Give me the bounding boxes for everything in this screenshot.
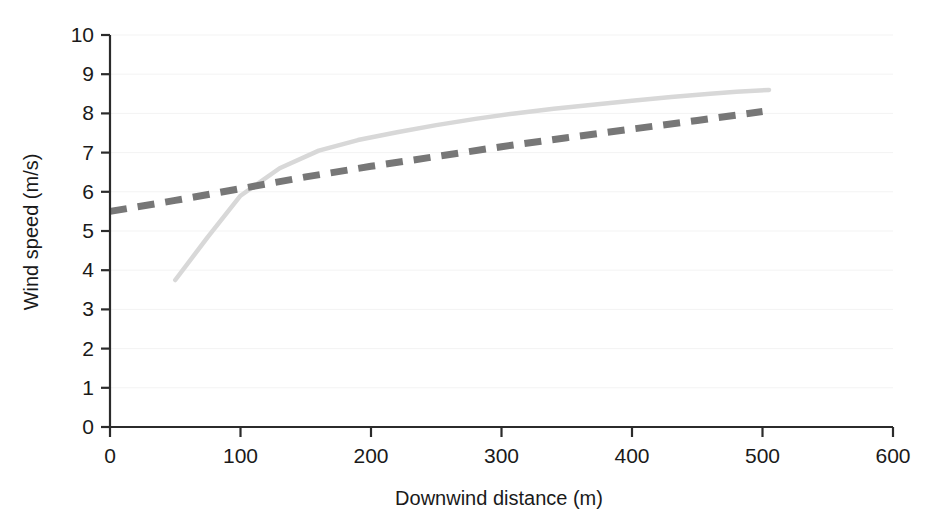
- x-tick-label: 100: [223, 444, 258, 467]
- y-tick-label: 2: [82, 337, 94, 360]
- y-tick-label: 1: [82, 376, 94, 399]
- y-tick-label: 4: [82, 258, 94, 281]
- x-axis-title: Downwind distance (m): [395, 487, 603, 509]
- data-series-layer: [110, 90, 769, 280]
- y-tick-label: 6: [82, 180, 94, 203]
- wind-speed-vs-downwind-distance-chart: 012345678910 0100200300400500600 Downwin…: [0, 0, 938, 528]
- chart-figure: 012345678910 0100200300400500600 Downwin…: [0, 0, 938, 528]
- x-tick-label: 200: [353, 444, 388, 467]
- y-axis-title: Wind speed (m/s): [20, 154, 42, 311]
- x-tick-label: 0: [104, 444, 116, 467]
- y-axis-tick-labels: 012345678910: [71, 23, 95, 438]
- y-tick-label: 0: [82, 415, 94, 438]
- x-tick-label: 600: [875, 444, 910, 467]
- y-axis-ticks: [101, 35, 110, 427]
- y-tick-label: 8: [82, 101, 94, 124]
- x-axis-tick-labels: 0100200300400500600: [104, 444, 910, 467]
- y-tick-label: 9: [82, 62, 94, 85]
- y-tick-label: 7: [82, 141, 94, 164]
- x-tick-label: 500: [745, 444, 780, 467]
- y-tick-label: 10: [71, 23, 94, 46]
- y-tick-label: 5: [82, 219, 94, 242]
- x-tick-label: 400: [614, 444, 649, 467]
- x-tick-label: 300: [484, 444, 519, 467]
- y-tick-label: 3: [82, 297, 94, 320]
- x-axis-ticks: [110, 427, 893, 437]
